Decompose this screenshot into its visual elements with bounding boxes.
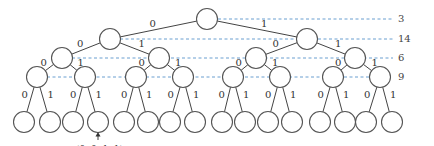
tree-edge — [341, 65, 347, 70]
edge-label-1: 1 — [261, 18, 267, 29]
tree-edge — [40, 87, 47, 112]
tree-edge — [271, 87, 278, 112]
tree-edge — [167, 65, 175, 71]
edge-label-1: 1 — [343, 89, 349, 100]
tree-edge — [217, 21, 296, 37]
edge-label-0: 0 — [168, 89, 174, 100]
leaf-node — [138, 112, 159, 133]
tree-node — [52, 48, 73, 69]
tree-edge — [266, 43, 297, 55]
edge-label-1: 1 — [78, 57, 84, 68]
edge-label-0: 0 — [139, 57, 145, 68]
tree-node — [173, 67, 194, 88]
binary-tree-diagram: 010101010101010101010101010101 3 14 6 9 … — [0, 0, 434, 146]
edge-label-1: 1 — [243, 89, 249, 100]
edge-label-1: 1 — [372, 57, 378, 68]
tree-edge — [283, 87, 290, 112]
level-counts: 3 14 6 9 — [398, 13, 411, 82]
edge-label-1: 1 — [390, 89, 396, 100]
level-count-4: 9 — [398, 71, 404, 82]
tree-edge — [120, 21, 196, 37]
tree-node — [297, 29, 318, 50]
tree-edge — [144, 65, 151, 71]
edge-label-1: 1 — [48, 89, 54, 100]
edge-label-0: 0 — [41, 57, 47, 68]
tree-edge — [336, 87, 343, 112]
leaf-node — [382, 112, 403, 133]
edge-label-0: 0 — [121, 89, 127, 100]
leaf-node — [282, 112, 303, 133]
edge-label-0: 0 — [318, 89, 324, 100]
tree-node — [100, 29, 121, 50]
tree-edge — [224, 87, 230, 112]
tree-node — [75, 67, 96, 88]
leaf-node — [212, 112, 233, 133]
edge-label-0: 0 — [265, 89, 271, 100]
edge-label-1: 1 — [96, 89, 102, 100]
tree-node — [345, 48, 366, 69]
edge-label-0: 0 — [364, 89, 370, 100]
tree-node — [370, 67, 391, 88]
edge-label-0: 0 — [273, 38, 279, 49]
leaf-node — [185, 112, 206, 133]
tree-node — [270, 67, 291, 88]
edge-label-0: 0 — [335, 57, 341, 68]
tree-edge — [76, 87, 83, 112]
leaf-pointer — [96, 132, 101, 140]
leaf-path-label: (0, 0, 1, 1) — [76, 144, 123, 146]
edge-label-0: 0 — [70, 89, 76, 100]
edge-labels: 010101010101010101010101010101 — [22, 18, 397, 100]
tree-node — [126, 67, 147, 88]
level-count-1: 3 — [398, 13, 404, 24]
tree-node — [246, 48, 267, 69]
level-count-2: 14 — [398, 33, 411, 44]
tree-edge — [173, 87, 180, 112]
tree-edge — [88, 87, 95, 112]
edge-label-1: 1 — [290, 89, 296, 100]
edge-label-1: 1 — [335, 38, 341, 49]
leaf-node — [114, 112, 135, 133]
edge-label-0: 0 — [77, 38, 83, 49]
leaf-node — [310, 112, 331, 133]
tree-nodes — [14, 9, 403, 133]
leaf-node — [14, 112, 35, 133]
tree-node — [27, 67, 48, 88]
tree-edge — [236, 87, 243, 112]
edge-label-0: 0 — [150, 18, 156, 29]
leaf-node — [258, 112, 279, 133]
tree-edge — [383, 87, 390, 112]
tree-edge — [70, 65, 77, 71]
tree-edge — [27, 87, 34, 112]
tree-edge — [241, 65, 248, 71]
tree-node — [149, 48, 170, 69]
leaf-node — [356, 112, 377, 133]
edge-label-0: 0 — [22, 89, 28, 100]
tree-edge — [186, 87, 193, 112]
edge-label-1: 1 — [193, 89, 199, 100]
leaf-node — [40, 112, 61, 133]
edge-label-0: 0 — [219, 89, 225, 100]
tree-edge — [363, 64, 371, 70]
edge-label-0: 0 — [236, 57, 242, 68]
leaf-node — [335, 112, 356, 133]
edge-label-1: 1 — [146, 89, 152, 100]
tree-node — [223, 67, 244, 88]
leaf-node — [160, 112, 181, 133]
tree-node — [197, 9, 218, 30]
tree-edge — [127, 87, 134, 112]
tree-edge — [264, 65, 272, 71]
level-count-3: 6 — [398, 52, 404, 63]
tree-edge — [323, 87, 330, 112]
tree-edge — [139, 87, 146, 112]
tree-node — [323, 67, 344, 88]
edge-label-1: 1 — [175, 57, 181, 68]
leaf-node — [235, 112, 256, 133]
leaf-node — [63, 112, 84, 133]
leaf-node — [88, 112, 109, 133]
edge-label-1: 1 — [272, 57, 278, 68]
edge-label-1: 1 — [139, 38, 145, 49]
